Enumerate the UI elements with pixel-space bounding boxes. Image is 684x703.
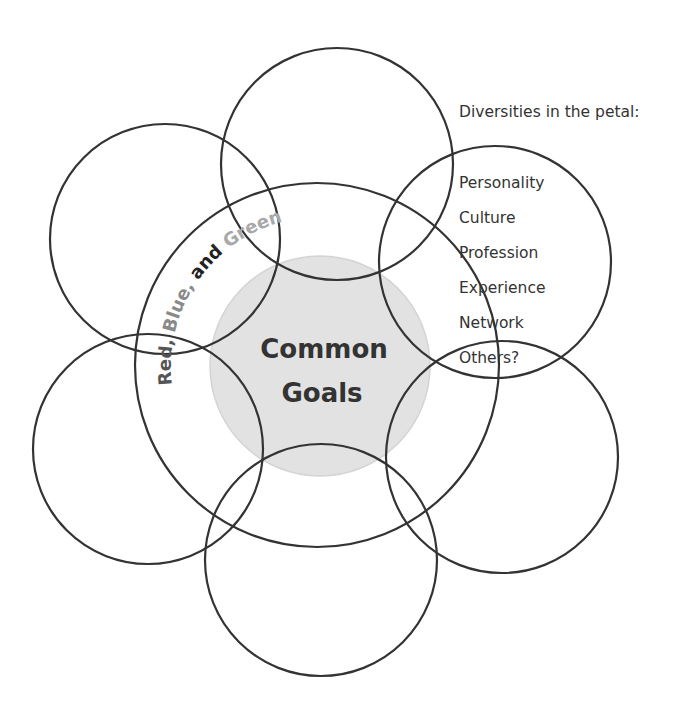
ring-label-green: Green: [219, 205, 284, 251]
diversity-item: Network: [459, 312, 545, 347]
diversity-item: Culture: [459, 207, 545, 242]
diversities-list: Personality Culture Profession Experienc…: [459, 172, 545, 382]
center-label-line1: Common: [260, 334, 388, 364]
ring-label-blue: Blue,: [158, 271, 201, 334]
diversity-item: Profession: [459, 242, 545, 277]
petal-top: [221, 48, 453, 280]
diversity-item: Personality: [459, 172, 545, 207]
diversities-title: Diversities in the petal:: [459, 103, 640, 121]
petal-bottom: [205, 444, 437, 676]
ring-label-and: and: [185, 235, 231, 282]
ring-label-red: Red,: [154, 330, 179, 387]
diversity-item: Experience: [459, 277, 545, 312]
diversity-item: Others?: [459, 347, 545, 382]
center-label-line2: Goals: [281, 378, 362, 408]
